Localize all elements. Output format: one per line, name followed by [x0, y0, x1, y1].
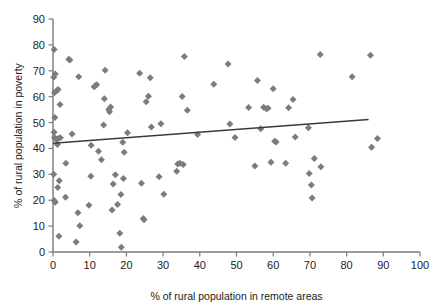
- data-point-marker: [51, 46, 58, 53]
- x-tick-label: 30: [157, 259, 169, 271]
- data-point-marker: [98, 156, 105, 163]
- data-point-marker: [254, 77, 261, 84]
- data-point-marker: [102, 67, 109, 74]
- y-tick-label: 50: [33, 117, 45, 129]
- data-point-marker: [56, 177, 63, 184]
- y-tick-label: 10: [33, 220, 45, 232]
- data-point-marker: [173, 168, 180, 175]
- x-tick-label: 10: [84, 259, 96, 271]
- x-tick-label: 50: [230, 259, 242, 271]
- data-point-marker: [110, 180, 117, 187]
- data-point-marker: [306, 170, 313, 177]
- data-point-marker: [124, 129, 131, 136]
- data-point-marker: [88, 142, 95, 149]
- data-point-marker: [50, 171, 57, 178]
- data-point-marker: [181, 53, 188, 60]
- data-point-marker: [157, 120, 164, 127]
- y-tick-label: 70: [33, 65, 45, 77]
- data-point-marker: [147, 74, 154, 81]
- data-point-marker: [374, 135, 381, 142]
- data-point-marker: [184, 107, 191, 114]
- data-point-marker: [285, 104, 292, 111]
- plot-area: 0102030405060708090100010203040506070809…: [12, 13, 429, 302]
- data-point-marker: [54, 184, 61, 191]
- data-point-marker: [292, 134, 299, 141]
- data-point-marker: [120, 175, 127, 182]
- data-point-marker: [349, 73, 356, 80]
- data-point-marker: [232, 134, 239, 141]
- data-point-marker: [367, 52, 374, 59]
- data-point-marker: [160, 191, 167, 198]
- x-tick-label: 40: [194, 259, 206, 271]
- data-point-marker: [62, 194, 69, 201]
- data-point-marker: [148, 123, 155, 130]
- data-point-marker: [290, 96, 297, 103]
- data-point-marker: [245, 104, 252, 111]
- data-point-marker: [112, 171, 119, 178]
- data-point-marker: [317, 163, 324, 170]
- data-point-marker: [118, 244, 125, 251]
- x-tick-label: 100: [411, 259, 429, 271]
- data-point-marker: [85, 202, 92, 209]
- x-tick-label: 60: [267, 259, 279, 271]
- data-point-marker: [317, 51, 324, 58]
- data-point-marker: [109, 207, 116, 214]
- y-tick-label: 60: [33, 91, 45, 103]
- data-point-marker: [100, 121, 107, 128]
- data-point-marker: [136, 70, 143, 77]
- data-point-marker: [95, 148, 102, 155]
- scatter-chart: 0102030405060708090100010203040506070809…: [0, 0, 439, 308]
- data-point-marker: [305, 124, 312, 131]
- y-tick-label: 0: [39, 246, 45, 258]
- x-axis-title: % of rural population in remote areas: [150, 290, 322, 302]
- data-point-marker: [282, 160, 289, 167]
- data-point-marker: [225, 61, 232, 68]
- x-tick-label: 70: [304, 259, 316, 271]
- data-point-marker: [114, 201, 121, 208]
- data-point-marker: [270, 85, 277, 92]
- x-tick-label: 0: [50, 259, 56, 271]
- y-tick-label: 40: [33, 142, 45, 154]
- data-point-marker: [87, 173, 94, 180]
- data-point-marker: [251, 163, 258, 170]
- data-point-marker: [210, 81, 217, 88]
- data-point-marker: [101, 95, 108, 102]
- data-point-marker: [257, 125, 264, 132]
- data-point-marker: [69, 130, 76, 137]
- data-point-marker: [368, 144, 375, 151]
- data-point-marker: [74, 209, 81, 216]
- data-point-marker: [55, 233, 62, 240]
- y-tick-label: 90: [33, 13, 45, 25]
- data-point-marker: [311, 155, 318, 162]
- data-point-marker: [267, 159, 274, 166]
- data-point-marker: [308, 181, 315, 188]
- x-tick-label: 90: [377, 259, 389, 271]
- data-point-marker: [121, 149, 128, 156]
- data-point-marker: [119, 139, 126, 146]
- data-point-marker: [179, 93, 186, 100]
- data-point-marker: [117, 191, 124, 198]
- data-point-marker: [309, 194, 316, 201]
- y-tick-label: 20: [33, 194, 45, 206]
- data-point-marker: [56, 101, 63, 108]
- x-tick-label: 80: [340, 259, 352, 271]
- trend-line: [53, 119, 369, 143]
- data-point-marker: [226, 121, 233, 128]
- y-tick-label: 80: [33, 39, 45, 51]
- data-point-marker: [156, 173, 163, 180]
- x-tick-label: 20: [120, 259, 132, 271]
- data-point-marker: [76, 222, 83, 229]
- data-point-marker: [75, 73, 82, 80]
- y-axis-title: % of rural population in poverty: [12, 62, 24, 207]
- data-point-marker: [73, 238, 80, 245]
- y-tick-label: 30: [33, 168, 45, 180]
- chart-canvas: 0102030405060708090100010203040506070809…: [0, 0, 439, 308]
- data-point-marker: [62, 160, 69, 167]
- data-point-marker: [116, 230, 123, 237]
- data-point-marker: [138, 180, 145, 187]
